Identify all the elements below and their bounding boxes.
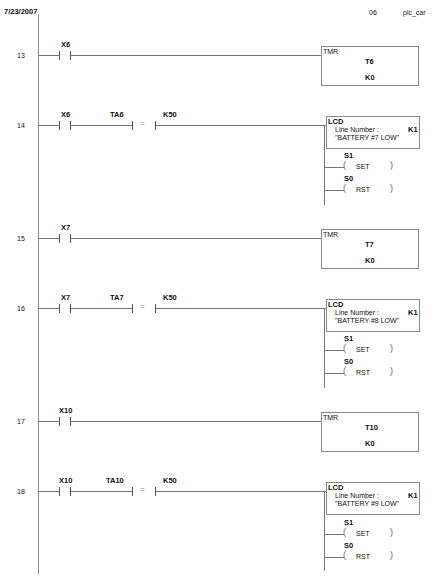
coil-open-paren-icon: ( [343,343,346,353]
rung-number: 17 [17,418,25,426]
coil-address: S1 [344,335,353,343]
coil-address: S0 [344,542,353,550]
lcd-box[interactable]: LCD Line Number : K1 "BATTERY #9 LOW" [326,482,420,515]
timer-box[interactable]: TMR T6 K0 [321,46,419,86]
coil-address: S1 [344,152,353,160]
contact-label: X7 [61,294,70,302]
rung-number: 14 [17,122,25,130]
box-title: TMR [323,231,338,239]
line-number-label: Line Number : [335,309,379,317]
timer-address: T10 [365,424,378,432]
lcd-box[interactable]: LCD Line Number : K1 "BATTERY #7 LOW" [326,116,420,149]
box-title: TMR [323,48,338,56]
contact-label: X7 [61,224,70,232]
line-number-label: Line Number : [335,126,379,134]
lcd-box[interactable]: LCD Line Number : K1 "BATTERY #8 LOW" [326,299,420,332]
coil-address: S1 [344,519,353,527]
coil-instruction: SET [356,346,370,354]
coil-close-paren-icon: ) [390,160,393,170]
compare-left-operand: TA10 [106,477,124,485]
coil-instruction: RST [356,553,370,561]
compare-right-operand: K50 [163,294,177,302]
compare-right-operand: K50 [163,111,177,119]
timer-box[interactable]: TMR T7 K0 [321,229,419,269]
box-title: LCD [328,301,343,309]
box-title: LCD [328,118,343,126]
coil-close-paren-icon: ) [390,550,393,560]
coil-instruction: SET [356,530,370,538]
coil-close-paren-icon: ) [390,343,393,353]
line-number-value: K1 [408,126,418,134]
coil-open-paren-icon: ( [343,550,346,560]
box-title: TMR [323,414,338,422]
coil-close-paren-icon: ) [390,366,393,376]
left-power-rail [38,14,39,574]
compare-right-operand: K50 [163,477,177,485]
coil-open-paren-icon: ( [343,366,346,376]
coil-instruction: RST [356,369,370,377]
compare-left-operand: TA6 [110,111,124,119]
rung-number: 18 [17,488,25,496]
coil-address: S0 [344,358,353,366]
lcd-message: "BATTERY #8 LOW" [335,317,399,325]
box-title: LCD [328,484,343,492]
line-number-value: K1 [408,309,418,317]
rung-number: 16 [17,305,25,313]
timer-box[interactable]: TMR T10 K0 [321,412,419,452]
timer-address: T7 [365,241,374,249]
coil-open-paren-icon: ( [343,160,346,170]
rung-number: 13 [17,52,25,60]
compare-left-operand: TA7 [110,294,124,302]
line-number-label: Line Number : [335,492,379,500]
rung-number: 15 [17,235,25,243]
timer-preset: K0 [365,74,375,82]
contact-label: X6 [61,41,70,49]
print-date: 7/23/2007 [4,8,37,16]
coil-instruction: SET [356,163,370,171]
timer-preset: K0 [365,257,375,265]
project-name: plc_car [403,9,426,17]
contact-label: X10 [59,477,72,485]
timer-preset: K0 [365,440,375,448]
lcd-message: "BATTERY #9 LOW" [335,500,399,508]
contact-label: X6 [61,111,70,119]
coil-open-paren-icon: ( [343,183,346,193]
contact-label: X10 [59,407,72,415]
lcd-message: "BATTERY #7 LOW" [335,134,399,142]
coil-instruction: RST [356,186,370,194]
coil-close-paren-icon: ) [390,183,393,193]
page-number: 06 [369,9,377,17]
line-number-value: K1 [408,492,418,500]
coil-address: S0 [344,175,353,183]
timer-address: T6 [365,58,374,66]
coil-open-paren-icon: ( [343,527,346,537]
coil-close-paren-icon: ) [390,527,393,537]
